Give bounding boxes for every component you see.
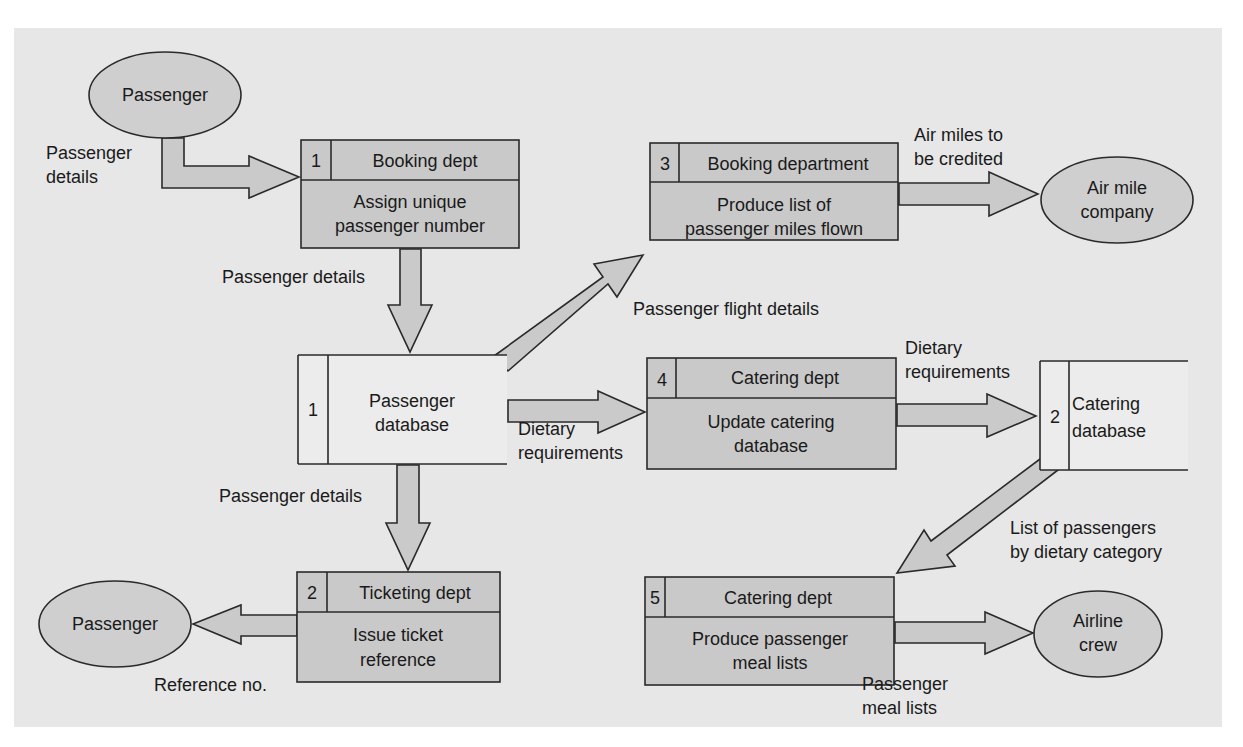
process-1-booking: 1 Booking dept Assign unique passenger n…: [301, 140, 519, 248]
entity-label-line: company: [1080, 202, 1153, 222]
process-4-catering: 4 Catering dept Update catering database: [647, 358, 896, 469]
process-number: 5: [650, 588, 660, 608]
process-line: Issue ticket: [353, 625, 443, 645]
entity-label: Passenger: [72, 614, 158, 634]
flow-label-line: Passenger: [862, 674, 948, 694]
entity-label-line: Air mile: [1087, 178, 1147, 198]
process-line: Assign unique: [353, 192, 466, 212]
flow-label-line: be credited: [914, 149, 1003, 169]
process-line: database: [734, 436, 808, 456]
process-number: 1: [311, 151, 321, 171]
process-line: passenger miles flown: [685, 219, 863, 239]
data-flow-diagram: Passenger Air mile company Passenger Air…: [0, 0, 1243, 747]
flow-label-line: by dietary category: [1010, 542, 1162, 562]
process-3-booking-department: 3 Booking department Produce list of pas…: [650, 143, 898, 240]
process-line: reference: [360, 650, 436, 670]
flow-label-line: Air miles to: [914, 125, 1003, 145]
flow-label-line: Passenger: [46, 143, 132, 163]
entity-label: Passenger: [122, 85, 208, 105]
entity-label-line: crew: [1079, 635, 1118, 655]
flow-label-line: requirements: [905, 362, 1010, 382]
flow-label-reference-no: Reference no.: [154, 675, 267, 695]
process-dept: Booking department: [707, 154, 868, 174]
flow-label-line: meal lists: [862, 698, 937, 718]
process-line: Produce list of: [717, 195, 832, 215]
flow-label-line: Dietary: [518, 419, 575, 439]
entity-passenger-top: Passenger: [89, 52, 241, 138]
process-dept: Ticketing dept: [359, 583, 470, 603]
store-number: 1: [308, 400, 318, 420]
store-line: database: [1072, 421, 1146, 441]
process-line: Produce passenger: [692, 629, 848, 649]
process-line: passenger number: [335, 216, 485, 236]
process-number: 3: [660, 154, 670, 174]
entity-air-mile-company: Air mile company: [1041, 157, 1193, 243]
flow-label-passenger-details-2: Passenger details: [222, 267, 365, 287]
process-dept: Catering dept: [731, 368, 839, 388]
process-5-catering: 5 Catering dept Produce passenger meal l…: [645, 577, 894, 685]
store-line: Passenger: [369, 391, 455, 411]
store-line: database: [375, 415, 449, 435]
flow-label-passenger-flight-details: Passenger flight details: [633, 299, 819, 319]
process-number: 2: [307, 583, 317, 603]
process-line: meal lists: [732, 653, 807, 673]
flow-label-line: List of passengers: [1010, 518, 1156, 538]
process-2-ticketing: 2 Ticketing dept Issue ticket reference: [297, 572, 500, 682]
flow-label-line: requirements: [518, 443, 623, 463]
flow-label-line: Dietary: [905, 338, 962, 358]
data-store-1-passenger-database: 1 Passenger database: [298, 355, 507, 464]
process-number: 4: [657, 370, 667, 390]
flow-label-passenger-details-3: Passenger details: [219, 486, 362, 506]
store-line: Catering: [1072, 394, 1140, 414]
entity-label-line: Airline: [1073, 611, 1123, 631]
entity-airline-crew: Airline crew: [1034, 591, 1162, 677]
flow-label-line: details: [46, 167, 98, 187]
process-dept: Booking dept: [372, 151, 477, 171]
process-line: Update catering: [707, 412, 834, 432]
entity-passenger-bottom: Passenger: [39, 581, 191, 667]
process-dept: Catering dept: [724, 588, 832, 608]
store-number: 2: [1050, 407, 1060, 427]
data-store-2-catering-database: 2 Catering database: [1040, 361, 1188, 470]
